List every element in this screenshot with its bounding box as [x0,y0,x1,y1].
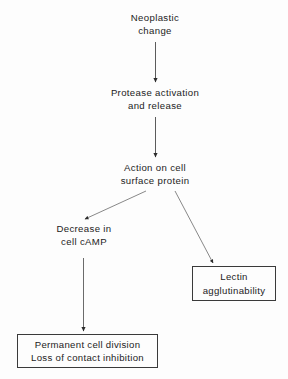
node-decrease-in-cell-camp: Decrease in cell cAMP [36,222,132,248]
edge-action-to-lectin [175,191,213,263]
node-lectin-line-2: agglutinability [203,284,266,297]
node-permanent-line-2: Loss of contact inhibition [31,351,144,364]
node-action-line-2: surface protein [100,174,210,187]
connector-layer [0,0,288,379]
node-lectin-agglutinability: Lectin agglutinability [192,266,276,301]
node-neoplastic-change-line-1: Neoplastic [103,11,207,24]
node-permanent-cell-division: Permanent cell division Loss of contact … [17,334,158,368]
node-protease-activation-line-2: and release [95,99,215,112]
flowchart-diagram: Neoplastic change Protease activation an… [0,0,288,379]
edge-action-to-camp [85,191,146,219]
node-camp-line-2: cell cAMP [36,235,132,248]
node-lectin-line-1: Lectin [220,270,247,283]
node-neoplastic-change-line-2: change [103,24,207,37]
node-camp-line-1: Decrease in [36,222,132,235]
node-neoplastic-change: Neoplastic change [103,11,207,37]
node-action-on-cell-surface-protein: Action on cell surface protein [100,161,210,187]
node-permanent-line-1: Permanent cell division [35,338,141,351]
node-action-line-1: Action on cell [100,161,210,174]
node-protease-activation-line-1: Protease activation [95,86,215,99]
node-protease-activation: Protease activation and release [95,86,215,112]
